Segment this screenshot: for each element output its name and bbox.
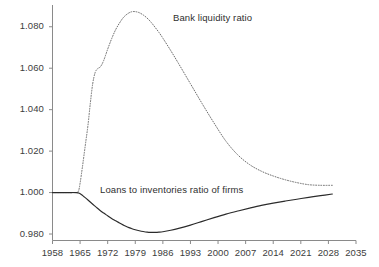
y-axis-tick-label: 0.980 xyxy=(0,228,44,239)
chart-plot-area xyxy=(0,0,379,267)
series-line-bank-liquidity-ratio xyxy=(53,12,333,193)
y-axis-tick-label: 1.040 xyxy=(0,103,44,114)
data-series-group xyxy=(53,12,333,233)
series-line-loans-to-inventories-ratio xyxy=(53,193,333,233)
x-axis-ticks xyxy=(53,241,357,245)
y-axis-tick-label: 1.080 xyxy=(0,20,44,31)
series-label-bank-liquidity-ratio: Bank liquidity ratio xyxy=(173,12,252,23)
y-axis-tick-label: 1.060 xyxy=(0,62,44,73)
x-axis-tick-label: 2035 xyxy=(336,247,376,258)
y-axis-ticks xyxy=(49,27,53,234)
chart-container: 0.9801.0001.0201.0401.0601.080 195819651… xyxy=(0,0,379,267)
series-label-loans-to-inventories-ratio: Loans to inventories ratio of firms xyxy=(100,184,243,195)
axis-lines xyxy=(53,5,357,241)
y-axis-tick-label: 1.000 xyxy=(0,186,44,197)
y-axis-tick-label: 1.020 xyxy=(0,145,44,156)
